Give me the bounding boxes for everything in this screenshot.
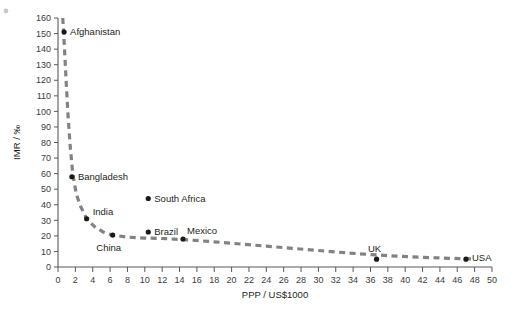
x-axis-tick-label: 36: [365, 275, 375, 285]
x-axis-tick-label: 22: [244, 275, 254, 285]
trend-curve: [63, 18, 475, 259]
y-axis-tick-label: 60: [41, 169, 51, 179]
x-axis-tick-label: 38: [383, 275, 393, 285]
y-axis-tick-label: 140: [36, 44, 51, 54]
y-axis-tick-label: 90: [41, 122, 51, 132]
data-point-label: Mexico: [187, 225, 217, 236]
y-axis-tick-label: 30: [41, 216, 51, 226]
x-axis-tick-label: 32: [331, 275, 341, 285]
y-axis-tick-label: 130: [36, 60, 51, 70]
y-axis-tick-label: 0: [46, 262, 51, 272]
x-axis-tick-label: 16: [192, 275, 202, 285]
x-axis-tick-label: 46: [452, 275, 462, 285]
y-axis-tick-label: 10: [41, 247, 51, 257]
data-point-label: India: [93, 206, 114, 217]
scatter-plot: 0102030405060708090100110120130140150160…: [0, 0, 515, 317]
x-axis-tick-label: 34: [348, 275, 358, 285]
x-axis-tick-label: 14: [175, 275, 185, 285]
y-axis-tick-label: 50: [41, 184, 51, 194]
data-point-label: Afghanistan: [70, 26, 120, 37]
chart-container: 0102030405060708090100110120130140150160…: [0, 0, 515, 317]
data-point-label: USA: [472, 252, 492, 263]
y-axis-tick-label: 120: [36, 75, 51, 85]
data-point: [374, 257, 379, 262]
x-axis-tick-label: 2: [73, 275, 78, 285]
y-axis-tick-label: 80: [41, 138, 51, 148]
x-axis-tick-label: 28: [296, 275, 306, 285]
x-axis-tick-label: 44: [435, 275, 445, 285]
x-axis-tick-label: 18: [209, 275, 219, 285]
x-axis-tick-label: 8: [125, 275, 130, 285]
data-point: [180, 236, 185, 241]
data-point: [110, 232, 115, 237]
y-axis-tick-label: 70: [41, 153, 51, 163]
y-axis-tick-label: 100: [36, 107, 51, 117]
x-axis-tick-label: 4: [90, 275, 95, 285]
data-point-label: Bangladesh: [78, 171, 128, 182]
y-axis-tick-label: 40: [41, 200, 51, 210]
y-axis-tick-label: 150: [36, 29, 51, 39]
y-axis-title: IMR / ‰: [11, 125, 22, 160]
x-axis-title: PPP / US$1000: [242, 289, 308, 300]
x-axis-tick-label: 20: [227, 275, 237, 285]
x-axis-tick-label: 24: [261, 275, 271, 285]
x-axis-tick-label: 6: [108, 275, 113, 285]
x-axis-tick-label: 42: [418, 275, 428, 285]
data-point-label: China: [96, 242, 122, 253]
data-point: [146, 229, 151, 234]
y-axis-tick-label: 110: [37, 91, 51, 101]
data-point: [69, 174, 74, 179]
data-point: [146, 196, 151, 201]
x-axis-tick-label: 50: [487, 275, 497, 285]
data-point: [84, 216, 89, 221]
x-axis-tick-label: 48: [470, 275, 480, 285]
data-point-label: South Africa: [154, 193, 206, 204]
x-axis-tick-label: 26: [279, 275, 289, 285]
x-axis-tick-label: 30: [313, 275, 323, 285]
x-axis-tick-label: 12: [157, 275, 167, 285]
data-point-label: UK: [368, 243, 382, 254]
x-axis-tick-label: 0: [55, 275, 60, 285]
y-axis-tick-label: 160: [36, 13, 51, 23]
y-axis-tick-label: 20: [41, 231, 51, 241]
x-axis-tick-label: 40: [400, 275, 410, 285]
x-axis-tick-label: 10: [140, 275, 150, 285]
corner-artifact: [4, 9, 9, 14]
data-point: [61, 29, 66, 34]
data-point: [463, 257, 468, 262]
data-point-label: Brazil: [154, 226, 178, 237]
